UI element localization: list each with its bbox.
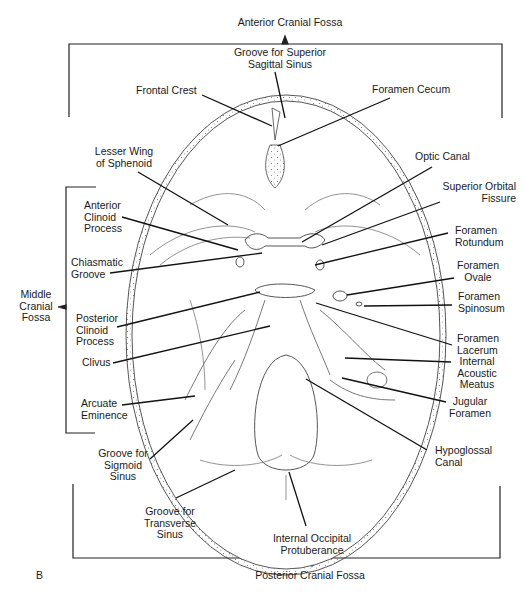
foramen-spinosum-label: Foramen Spinosum [458, 291, 505, 314]
arcuate-eminence-label: Arcuate Eminence [81, 398, 128, 421]
internal-occipital-protuberance-label: Internal Occipital Protuberance [262, 533, 362, 556]
hypoglossal-canal-label: Hypoglossal Canal [435, 445, 492, 468]
anterior-clinoid-process-label: Anterior Clinoid Process [84, 200, 122, 235]
posterior-clinoid-process-label: Posterior Clinoid Process [76, 313, 118, 348]
groove-transverse-sinus-label: Groove for Transverse Sinus [142, 506, 198, 541]
skull-outline [126, 95, 446, 575]
foramen-cecum-label: Foramen Cecum [372, 84, 450, 96]
jugular-foramen-label: Jugular Foramen [448, 396, 492, 419]
frontal-crest-label: Frontal Crest [136, 85, 197, 97]
chiasmatic-groove-label: Chiasmatic Groove [71, 257, 123, 280]
middle-cranial-fossa-label: Middle Cranial Fossa [14, 289, 58, 324]
internal-acoustic-meatus-label: Internal Acoustic Meatus [454, 356, 500, 391]
foramen-ovale-label: Foramen Ovale [448, 260, 508, 283]
foramen-rotundum-label: Foramen Rotundum [455, 225, 503, 248]
optic-canal-label: Optic Canal [415, 151, 470, 163]
foramen-lacerum-label: Foramen Lacerum [457, 333, 499, 356]
superior-orbital-fissure-label: Superior Orbital Fissure [420, 181, 516, 204]
anterior-cranial-fossa-label: Anterior Cranial Fossa [210, 17, 370, 29]
groove-superior-sagittal-sinus-label: Groove for Superior Sagittal Sinus [222, 47, 338, 70]
clivus-label: Clivus [82, 357, 111, 369]
lesser-wing-sphenoid-label: Lesser Wing of Sphenoid [88, 146, 160, 169]
posterior-cranial-fossa-label: Posterior Cranial Fossa [230, 570, 390, 582]
groove-sigmoid-sinus-label: Groove for Sigmoid Sinus [96, 448, 150, 483]
panel-letter: B [36, 570, 43, 582]
